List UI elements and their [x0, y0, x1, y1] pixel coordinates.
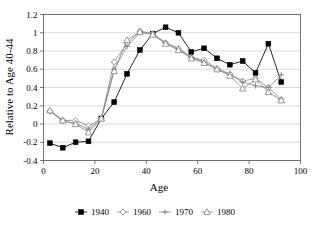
y-tick-label: 0.2 — [26, 101, 37, 111]
data-point-marker — [279, 80, 284, 85]
x-tick-label: 0 — [41, 166, 46, 176]
chart-container: 020406080100 -0.4-0.200.20.40.60.811.2 A… — [0, 0, 319, 232]
data-point-marker — [73, 140, 78, 145]
y-tick-label: 0.4 — [26, 83, 38, 93]
y-tick-label: -0.4 — [23, 156, 38, 166]
data-point-marker — [215, 56, 220, 61]
data-point-marker — [48, 141, 53, 146]
y-tick-label: 1.2 — [26, 10, 37, 20]
y-tick-label: 0.8 — [26, 46, 38, 56]
legend-label: 1960 — [133, 207, 152, 217]
data-point-marker — [79, 210, 84, 215]
data-point-marker — [86, 139, 91, 144]
data-point-marker — [60, 145, 65, 150]
data-point-marker — [112, 100, 117, 105]
y-tick-label: 0.6 — [26, 64, 38, 74]
data-point-marker — [202, 46, 207, 51]
y-tick-label: -0.2 — [23, 137, 37, 147]
data-point-marker — [266, 41, 271, 46]
data-point-marker — [227, 62, 232, 67]
relative-to-age-line-chart: 020406080100 -0.4-0.200.20.40.60.811.2 A… — [0, 0, 319, 232]
y-tick-label: 1 — [33, 28, 38, 38]
legend-label: 1980 — [217, 207, 236, 217]
data-point-marker — [240, 59, 245, 64]
legend-label: 1970 — [175, 207, 194, 217]
chart-background — [0, 0, 319, 232]
data-point-marker — [253, 71, 258, 76]
data-point-marker — [189, 50, 194, 55]
x-axis-title: Age — [150, 181, 168, 193]
y-axis-title: Relative to Age 40-44 — [3, 38, 15, 135]
x-tick-label: 20 — [90, 166, 100, 176]
y-tick-label: 0 — [33, 119, 38, 129]
x-tick-label: 40 — [142, 166, 152, 176]
x-tick-label: 60 — [193, 166, 203, 176]
legend-label: 1940 — [91, 207, 110, 217]
x-tick-label: 80 — [245, 166, 255, 176]
data-point-marker — [163, 25, 168, 30]
x-tick-label: 100 — [294, 166, 308, 176]
data-point-marker — [176, 30, 181, 35]
data-point-marker — [125, 71, 130, 76]
data-point-marker — [137, 48, 142, 53]
